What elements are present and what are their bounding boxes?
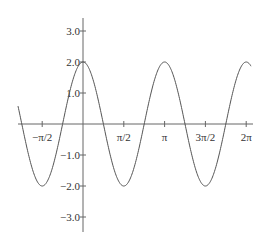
y-tick-label: 3.0 [66,25,80,37]
y-tick-label: −2.0 [60,180,80,192]
x-tick-label: π [162,131,168,143]
cosine-plot: −π/2π/2π3π/22π3.02.01.0−1.0−2.0−3.0 [0,0,264,245]
x-tick-label: 3π/2 [196,131,216,143]
x-tick-label: 2π [241,131,253,143]
x-tick-label: −π/2 [32,131,52,143]
y-tick-label: −1.0 [60,149,80,161]
x-tick-label: π/2 [117,131,131,143]
y-tick-label: −3.0 [60,211,80,223]
